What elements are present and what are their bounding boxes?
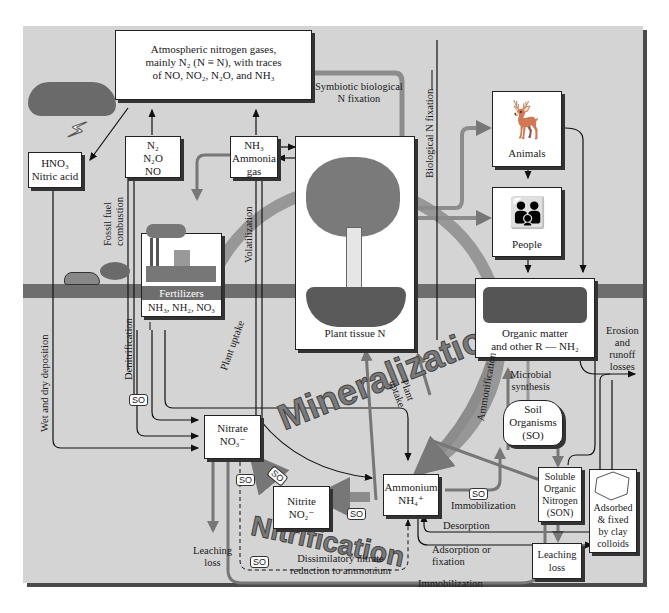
ammonia-gas-box: NH₃ Ammonia gas [230,136,278,178]
son-line-3: Nitrogen [539,495,581,507]
nitrate-box: Nitrate NO₃⁻ [204,415,261,459]
erosion-line-1: Erosion [606,325,639,336]
adsorption-line-2: fixation [432,556,465,567]
symbiotic-fixation-label: Symbiotic biological N fixation [315,81,403,105]
humus-icon [483,287,587,323]
biological-fixation-label: Biological N fixation [424,89,435,178]
people-label: People [493,238,561,251]
plant-tissue-label: Plant tissue N [296,327,414,340]
leaching-line-2: loss [204,557,220,568]
nitrite-label: Nitrite [274,495,329,508]
ammonium-label: Ammonium [384,481,438,494]
deer-icon: 🦌 [493,92,561,147]
leaching-line-1: Leaching [193,545,232,556]
storm-cloud-icon [28,82,116,116]
immobilization-bottom-label: Immobilization [418,578,483,590]
organic-matter-box: Organic matter and other R — NH₂ [475,278,595,358]
adsorption-line-1: Adsorption or [432,544,491,555]
ammonium-box: Ammonium NH₄⁺ [383,474,439,516]
fertilizers-formula: NH₃, NH₂, NO₃ [142,300,221,316]
nitrate-formula: NO₃⁻ [205,435,260,448]
son-line-4: (SON) [539,507,581,519]
son-leaching-line-1: Leaching [533,548,581,561]
gas-label: gas [231,165,277,178]
clay-line-3: by clay [590,526,636,538]
soil-organisms-line-1: Soil [504,403,562,416]
clay-line-2: & fixed [590,514,636,526]
nitrate-leaching-loss-label: Leaching loss [193,545,232,569]
adsorption-fixation-label: Adsorption or fixation [432,544,491,568]
plant-tissue-box: Plant tissue N [295,136,415,350]
nitrite-box: Nitrite NO₂⁻ [273,486,330,529]
so-tag-nitrate: SO [236,474,255,486]
nitric-acid-box: HNO₃ Nitric acid [28,152,82,188]
soil-organisms-box: Soil Organisms (SO) [503,400,563,446]
fossil-fuel-line-1: Fossil fuel [102,202,113,246]
soluble-organic-nitrogen-box: Soluble Organic Nitrogen (SON) [538,467,582,522]
no-label: NO [126,165,180,178]
microbial-line-1: Microbial [510,369,551,380]
n2-label: N₂ [126,139,180,152]
soil-organisms-line-3: (SO) [504,429,562,442]
symbiotic-line-1: Symbiotic biological [315,81,403,92]
nitrate-label: Nitrate [205,422,260,435]
nitrogen-gases-box: N₂ N₂O NO [125,136,181,178]
animals-box: 🦌 Animals [492,91,562,167]
clay-line-4: colloids [590,538,636,550]
dissimilatory-line-2: reduction to ammonium [290,565,391,576]
ammonia-label: Ammonia [231,152,277,165]
microbial-synthesis-label: Microbial synthesis [510,369,551,393]
fertilizers-box: Fertilizers NH₃, NH₂, NO₃ [141,233,222,317]
clay-crystal-icon [591,470,635,502]
n2o-label: N₂O [126,152,180,165]
erosion-line-4: losses [610,361,635,372]
atmosphere-line-2: mainly N₂ (N ≡ N), with traces [116,56,311,69]
dissimilatory-line-1: Dissimilatory nitrate [297,553,384,564]
clay-colloids-box: Adsorbed & fixed by clay colloids [589,469,637,553]
erosion-runoff-label: Erosion and runoff losses [606,325,639,373]
wet-dry-deposition-label: Wet and dry deposition [39,335,50,432]
factory-icon [142,234,221,286]
so-tag-bottom: SO [250,556,269,568]
atmosphere-line-3: of NO, NO₂, N₂O, and NH₃ [116,69,311,82]
fossil-fuel-line-2: combustion [114,197,125,246]
atmosphere-line-1: Atmospheric nitrogen gases, [116,43,311,56]
so-tag-ammonium-nitrite: SO [347,508,366,520]
denitrification-label: Denitrification [123,318,134,380]
atmospheric-nitrogen-box: Atmospheric nitrogen gases, mainly N₂ (N… [115,30,312,100]
microbial-line-2: synthesis [511,381,550,392]
volatilization-label: Volatilization [243,207,254,263]
nitric-acid-label: Nitric acid [29,170,81,183]
clay-line-1: Adsorbed [590,502,636,514]
people-icon: 👪 [493,188,561,238]
nitrite-formula: NO₂⁻ [274,508,329,521]
erosion-line-3: runoff [609,349,635,360]
exhaust-smoke-icon [100,262,130,280]
symbiotic-line-2: N fixation [337,93,380,104]
organic-matter-line-1: Organic matter [476,327,594,340]
son-leaching-loss-box: Leaching loss [532,543,582,579]
erosion-line-2: and [615,337,630,348]
fossil-fuel-label: Fossil fuel combustion [102,197,126,246]
son-leaching-line-2: loss [533,561,581,574]
desorption-label: Desorption [443,520,490,532]
son-line-1: Soluble [539,471,581,483]
nh3-label: NH₃ [231,139,277,152]
ammonium-formula: NH₄⁺ [384,494,438,507]
soil-organisms-line-2: Organisms [504,416,562,429]
dissimilatory-reduction-label: Dissimilatory nitrate reduction to ammon… [290,553,391,577]
son-line-2: Organic [539,483,581,495]
car-icon [64,272,100,285]
animals-label: Animals [493,147,561,160]
immobilization-top-label: Immobilization [451,500,516,512]
so-tag-denitrification: SO [129,394,148,406]
organic-matter-line-2: and other R — NH₂ [476,340,594,353]
fertilizers-title: Fertilizers [142,286,221,300]
tree-icon [296,137,414,327]
people-box: 👪 People [492,187,562,257]
so-tag-immobilization: SO [469,488,488,500]
nitric-acid-formula: HNO₃ [29,157,81,170]
